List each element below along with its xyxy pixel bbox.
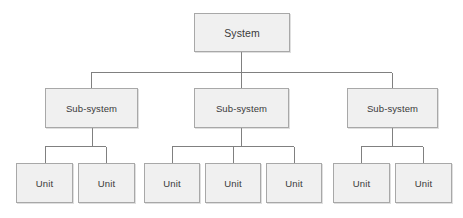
node-unit-4[interactable]: Unit [205, 163, 261, 203]
node-subsystem-2-label: Sub-system [216, 103, 267, 114]
node-unit-2[interactable]: Unit [78, 163, 135, 203]
node-unit-6-label: Unit [353, 178, 370, 189]
node-subsystem-1-label: Sub-system [66, 103, 117, 114]
node-unit-2-label: Unit [98, 178, 115, 189]
node-subsystem-3-label: Sub-system [367, 103, 418, 114]
node-subsystem-2[interactable]: Sub-system [194, 88, 289, 128]
node-subsystem-3[interactable]: Sub-system [347, 88, 438, 128]
node-unit-4-label: Unit [224, 178, 241, 189]
node-unit-3-label: Unit [163, 178, 180, 189]
node-unit-7[interactable]: Unit [395, 163, 452, 203]
node-system[interactable]: System [194, 13, 290, 52]
system-hierarchy-diagram: System Sub-system Sub-system Sub-system … [0, 0, 463, 218]
node-unit-5-label: Unit [285, 178, 302, 189]
node-unit-5[interactable]: Unit [266, 163, 322, 203]
node-subsystem-1[interactable]: Sub-system [45, 88, 138, 128]
node-unit-3[interactable]: Unit [144, 163, 200, 203]
node-unit-7-label: Unit [415, 178, 432, 189]
node-unit-6[interactable]: Unit [333, 163, 390, 203]
node-unit-1-label: Unit [36, 178, 53, 189]
node-system-label: System [224, 27, 260, 39]
node-unit-1[interactable]: Unit [16, 163, 73, 203]
